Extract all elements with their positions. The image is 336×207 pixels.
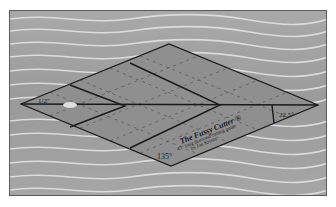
acute-angle-label: 22.5°: [279, 111, 294, 119]
photo-art: [10, 11, 327, 196]
obtuse-angle-label: 135°: [157, 152, 172, 161]
highlight-spot: [63, 102, 77, 108]
tip-label: 1/2": [38, 97, 50, 105]
ruler-photo: 1/2" The Fussy Cutter ® 45° long diamond…: [9, 10, 327, 196]
